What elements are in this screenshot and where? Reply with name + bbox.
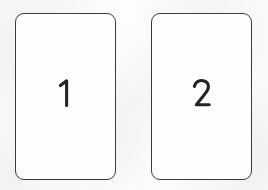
card-1[interactable]: 1 [15, 13, 116, 180]
card-1-number-glyph [49, 76, 83, 110]
card-2-number-glyph [185, 76, 219, 110]
card-canvas: 1 2 [0, 0, 268, 190]
card-2[interactable]: 2 [151, 13, 252, 180]
